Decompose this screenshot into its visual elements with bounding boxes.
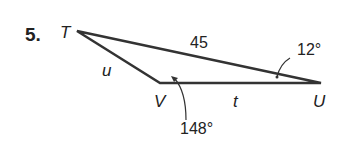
side-u-label: u: [102, 62, 111, 79]
angle-v-arrow: [175, 79, 186, 120]
vertex-t-label: T: [60, 24, 70, 41]
problem-number: 5.: [25, 25, 41, 44]
side-tu-label: 45: [190, 35, 208, 51]
vertex-v-label: V: [154, 93, 165, 110]
triangle-diagram: [0, 0, 346, 152]
side-t-label: t: [233, 93, 238, 110]
angle-u-label: 12°: [297, 42, 321, 58]
angle-v-label: 148°: [180, 121, 213, 137]
vertex-u-label: U: [313, 93, 325, 110]
